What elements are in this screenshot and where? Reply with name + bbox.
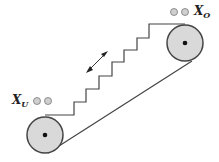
escalator-diagram <box>0 0 219 162</box>
passenger-markers-lower <box>34 98 52 105</box>
upper-pulley <box>167 25 203 61</box>
return-belt <box>48 61 192 153</box>
lower-pulley <box>27 117 63 153</box>
direction-arrow-icon <box>86 51 108 73</box>
passenger-markers-upper <box>171 9 189 16</box>
label-upper: XO <box>194 4 210 20</box>
label-lower: XU <box>12 93 28 109</box>
stair-profile <box>45 24 185 115</box>
